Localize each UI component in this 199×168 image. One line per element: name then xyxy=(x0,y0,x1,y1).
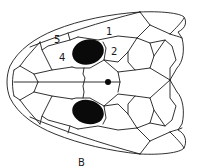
lizard-head-diagram: 1 2 4 5 B xyxy=(0,0,199,168)
scale-line xyxy=(20,82,38,100)
scale-line xyxy=(103,104,137,128)
label-5: 5 xyxy=(54,34,60,45)
scale-line xyxy=(170,132,184,148)
scale-line xyxy=(150,40,176,80)
scale-line xyxy=(34,92,52,96)
scale-line xyxy=(34,70,52,74)
scale-line xyxy=(104,60,135,72)
pineal-dot xyxy=(105,79,111,85)
scale-line xyxy=(154,110,165,126)
head-outline xyxy=(7,12,186,155)
label-2: 2 xyxy=(111,46,117,57)
frontal-suture xyxy=(83,68,85,98)
supraocular-dark-top xyxy=(69,36,106,68)
scale-line xyxy=(137,128,150,141)
scale-line xyxy=(150,68,170,80)
scale-line xyxy=(104,94,135,106)
scale-line xyxy=(170,18,184,34)
label-4: 4 xyxy=(59,52,65,63)
scale-line xyxy=(78,126,137,130)
scale-line xyxy=(137,25,150,38)
scale-line xyxy=(40,116,78,129)
scale-line xyxy=(68,33,70,40)
panel-label: B xyxy=(78,157,85,168)
scale-line xyxy=(103,38,137,62)
scale-line xyxy=(13,70,15,96)
scale-line xyxy=(42,50,72,70)
scale-line xyxy=(150,80,170,98)
scale-line xyxy=(42,96,72,116)
label-1: 1 xyxy=(106,26,112,37)
supraocular-dark-bottom xyxy=(69,96,106,127)
scale-line xyxy=(154,40,165,56)
